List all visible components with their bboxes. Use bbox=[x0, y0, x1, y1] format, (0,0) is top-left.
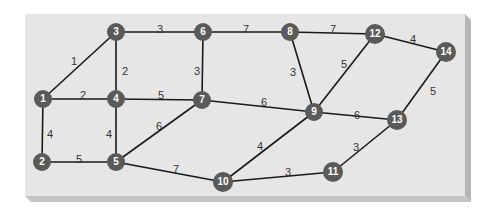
edge-weight-label: 4 bbox=[410, 33, 416, 45]
panel-right-edge bbox=[465, 14, 471, 202]
node-label: 11 bbox=[328, 166, 339, 177]
edge-weight-label: 4 bbox=[257, 140, 263, 152]
edge-weight-label: 3 bbox=[157, 23, 163, 35]
node-label: 12 bbox=[369, 28, 381, 39]
edge-weight-label: 3 bbox=[194, 65, 200, 77]
node-label: 2 bbox=[39, 156, 45, 167]
node-13: 13 bbox=[387, 110, 407, 130]
edge-weight-label: 7 bbox=[243, 23, 249, 35]
panel-bottom-edge bbox=[25, 196, 471, 202]
edge-1-2 bbox=[42, 99, 43, 162]
node-label: 7 bbox=[199, 94, 205, 105]
edge-weight-label: 2 bbox=[122, 65, 128, 77]
edge-weight-label: 5 bbox=[341, 58, 347, 70]
edge-weight-label: 1 bbox=[71, 55, 77, 67]
node-1: 1 bbox=[34, 90, 52, 108]
edge-weight-label: 2 bbox=[80, 89, 86, 101]
node-label: 10 bbox=[217, 176, 229, 187]
node-8: 8 bbox=[281, 23, 299, 41]
edge-weight-label: 5 bbox=[430, 85, 436, 97]
node-10: 10 bbox=[213, 172, 233, 192]
edge-weight-label: 6 bbox=[354, 109, 360, 121]
graph-canvas: 1242354567376735643345 12345678910111213… bbox=[0, 0, 495, 218]
edge-weight-label: 3 bbox=[353, 141, 359, 153]
edge-weight-label: 4 bbox=[47, 128, 53, 140]
edge-weight-label: 4 bbox=[106, 128, 112, 140]
node-14: 14 bbox=[436, 42, 456, 62]
edge-weight-label: 7 bbox=[330, 23, 336, 35]
node-label: 5 bbox=[113, 156, 119, 167]
edge-weight-label: 6 bbox=[261, 96, 267, 108]
edge-weight-label: 7 bbox=[173, 163, 179, 175]
node-7: 7 bbox=[193, 91, 211, 109]
node-4: 4 bbox=[107, 90, 125, 108]
node-label: 8 bbox=[287, 26, 293, 37]
node-label: 13 bbox=[391, 114, 403, 125]
node-label: 6 bbox=[200, 26, 206, 37]
node-5: 5 bbox=[107, 153, 125, 171]
node-label: 14 bbox=[440, 46, 452, 57]
node-11: 11 bbox=[323, 162, 343, 182]
edge-weight-label: 6 bbox=[156, 120, 162, 132]
node-label: 1 bbox=[40, 93, 46, 104]
node-3: 3 bbox=[107, 23, 125, 41]
graph-diagram: 1242354567376735643345 12345678910111213… bbox=[0, 0, 495, 218]
edge-6-7 bbox=[202, 32, 203, 100]
edge-weight-label: 3 bbox=[285, 166, 291, 178]
node-2: 2 bbox=[33, 153, 51, 171]
edge-weight-label: 5 bbox=[158, 89, 164, 101]
node-6: 6 bbox=[194, 23, 212, 41]
node-9: 9 bbox=[305, 103, 323, 121]
node-label: 9 bbox=[311, 106, 317, 117]
node-label: 3 bbox=[113, 26, 119, 37]
edge-weight-label: 5 bbox=[76, 153, 82, 165]
node-12: 12 bbox=[365, 24, 385, 44]
edge-weight-label: 3 bbox=[290, 66, 296, 78]
node-label: 4 bbox=[113, 93, 119, 104]
